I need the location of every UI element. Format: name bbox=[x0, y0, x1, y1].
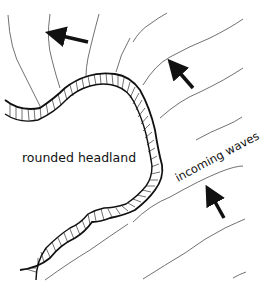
coastline-hatching bbox=[10, 73, 160, 272]
label-incoming-waves: incoming waves bbox=[173, 129, 262, 185]
wave-crest-line bbox=[86, 14, 99, 76]
wave-crest-line bbox=[45, 224, 128, 280]
wave-direction-arrows bbox=[62, 36, 224, 218]
diagram-canvas: rounded headland incoming waves bbox=[0, 0, 266, 286]
coastline bbox=[5, 73, 162, 280]
wave-crest-line bbox=[116, 38, 130, 72]
arrow-refracted-top-right bbox=[179, 72, 193, 88]
arrow-incoming-right bbox=[214, 200, 224, 218]
wave-crest-line bbox=[233, 272, 246, 278]
coastline-inner-edge bbox=[5, 84, 152, 280]
label-rounded-headland: rounded headland bbox=[22, 150, 136, 165]
headland-diagram: rounded headland incoming waves bbox=[0, 0, 266, 286]
wave-crest-line bbox=[143, 219, 245, 279]
arrow-refracted-top-left bbox=[62, 36, 88, 42]
wave-crest-line bbox=[48, 14, 60, 88]
wave-crest-line bbox=[196, 117, 242, 140]
wave-crest-line bbox=[143, 19, 243, 85]
wave-crests bbox=[8, 13, 246, 280]
wave-crest-line bbox=[160, 68, 243, 118]
wave-crest-line bbox=[8, 15, 40, 106]
coastline-outer-edge bbox=[5, 73, 162, 270]
wave-crest-line bbox=[133, 13, 167, 42]
